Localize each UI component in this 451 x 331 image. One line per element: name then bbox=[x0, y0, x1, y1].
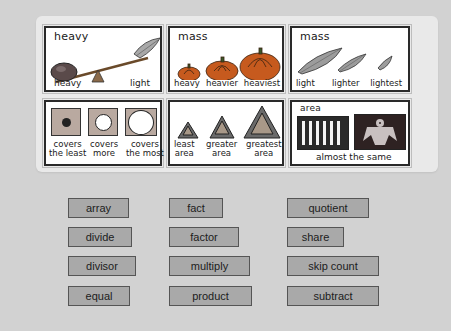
striped-rug-icon bbox=[297, 116, 349, 150]
label-heavier: heavier bbox=[206, 79, 238, 88]
square-small-dot-icon bbox=[51, 108, 81, 136]
word-product[interactable]: product bbox=[169, 286, 252, 306]
card-mass-pumpkins[interactable]: mass heavy heavier heaviest bbox=[168, 26, 284, 92]
word-divide[interactable]: divide bbox=[68, 227, 132, 247]
label-greatest-area: greatest area bbox=[246, 140, 281, 158]
feathers-icon bbox=[294, 40, 410, 76]
label-heavy: heavy bbox=[54, 79, 81, 88]
label-greater-area: greater area bbox=[206, 140, 237, 158]
card-area-triangles[interactable]: least area greater area greatest area bbox=[168, 100, 284, 166]
word-equal[interactable]: equal bbox=[68, 286, 130, 306]
card-mass-feathers[interactable]: mass light lighter lightest bbox=[290, 26, 410, 92]
label-heavy: heavy bbox=[174, 79, 200, 88]
word-skip-count[interactable]: skip count bbox=[287, 256, 379, 276]
card-covers[interactable]: covers the least covers more covers the … bbox=[44, 100, 162, 166]
label-lighter: lighter bbox=[332, 79, 360, 88]
square-medium-circle-icon bbox=[88, 108, 118, 136]
label-least-area: least area bbox=[174, 140, 195, 158]
word-multiply[interactable]: multiply bbox=[169, 256, 250, 276]
card-heavy-light[interactable]: heavy heavy light bbox=[44, 26, 162, 92]
word-divisor[interactable]: divisor bbox=[68, 256, 136, 276]
label-covers-most: covers the most bbox=[126, 140, 164, 158]
triangles-icon bbox=[172, 104, 284, 140]
pumpkins-icon bbox=[172, 40, 284, 80]
square-large-circle-icon bbox=[125, 108, 157, 136]
eagle-rug-icon bbox=[354, 114, 406, 150]
label-covers-more: covers more bbox=[90, 140, 118, 158]
vocabulary-cards-panel: heavy heavy light mass bbox=[36, 16, 438, 172]
word-factor[interactable]: factor bbox=[169, 227, 239, 247]
label-heaviest: heaviest bbox=[244, 79, 280, 88]
word-quotient[interactable]: quotient bbox=[287, 198, 369, 218]
word-share[interactable]: share bbox=[287, 227, 344, 247]
word-subtract[interactable]: subtract bbox=[287, 286, 379, 306]
label-covers-least: covers the least bbox=[49, 140, 86, 158]
card-area-same[interactable]: area almost the same bbox=[290, 100, 410, 166]
seesaw-icon bbox=[48, 34, 162, 84]
label-light: light bbox=[130, 79, 150, 88]
label-lightest: lightest bbox=[370, 79, 402, 88]
word-fact[interactable]: fact bbox=[169, 198, 223, 218]
word-array[interactable]: array bbox=[68, 198, 129, 218]
label-almost-same: almost the same bbox=[316, 153, 392, 162]
label-light: light bbox=[296, 79, 315, 88]
card-title: area bbox=[300, 103, 321, 113]
